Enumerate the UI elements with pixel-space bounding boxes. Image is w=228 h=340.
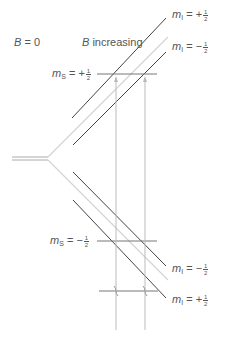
fraction: 12 bbox=[84, 235, 89, 248]
fraction: 12 bbox=[203, 294, 208, 307]
numerator: 1 bbox=[203, 263, 208, 270]
ms-plus-branch bbox=[48, 37, 168, 157]
b-zero-eq: = 0 bbox=[21, 36, 40, 48]
fraction: 12 bbox=[203, 9, 208, 22]
m-variable: m bbox=[50, 234, 59, 246]
numerator: 1 bbox=[203, 41, 208, 48]
numerator: 1 bbox=[84, 235, 89, 242]
denominator: 2 bbox=[86, 75, 91, 81]
label-mi-top-plus: mI = +12 bbox=[172, 8, 208, 24]
fraction: 12 bbox=[86, 68, 91, 81]
label-b-increasing: B increasing bbox=[82, 36, 143, 48]
fraction: 12 bbox=[203, 41, 208, 54]
label-b-zero: B = 0 bbox=[14, 36, 40, 48]
arrowhead-2 bbox=[143, 76, 147, 82]
denominator: 2 bbox=[203, 16, 208, 22]
denominator: 2 bbox=[203, 48, 208, 54]
m-variable: m bbox=[52, 67, 61, 79]
equals: = − bbox=[183, 40, 202, 52]
ms-minus-branch bbox=[48, 160, 168, 280]
label-ms-minus: mS = −12 bbox=[50, 234, 89, 250]
equals: = + bbox=[183, 293, 202, 305]
m-variable: m bbox=[172, 8, 181, 20]
fraction: 12 bbox=[203, 263, 208, 276]
label-mi-bottom-plus: mI = +12 bbox=[172, 293, 208, 309]
numerator: 1 bbox=[203, 294, 208, 301]
denominator: 2 bbox=[203, 270, 208, 276]
m-variable: m bbox=[172, 262, 181, 274]
b-increasing-text: increasing bbox=[89, 36, 142, 48]
mi-minus-lower-level bbox=[73, 172, 166, 266]
label-mi-bottom-minus: mI = −12 bbox=[172, 262, 208, 278]
equals: = + bbox=[183, 8, 202, 20]
numerator: 1 bbox=[86, 68, 91, 75]
mi-minus-upper-level bbox=[73, 52, 166, 145]
label-ms-plus: mS = +12 bbox=[52, 67, 91, 83]
equals: = − bbox=[64, 234, 83, 246]
numerator: 1 bbox=[203, 9, 208, 16]
label-mi-top-minus: mI = −12 bbox=[172, 40, 208, 56]
equals: = − bbox=[183, 262, 202, 274]
m-variable: m bbox=[172, 40, 181, 52]
equals: = + bbox=[66, 67, 85, 79]
arrowhead-1 bbox=[114, 76, 118, 82]
m-variable: m bbox=[172, 293, 181, 305]
denominator: 2 bbox=[203, 301, 208, 307]
denominator: 2 bbox=[84, 242, 89, 248]
